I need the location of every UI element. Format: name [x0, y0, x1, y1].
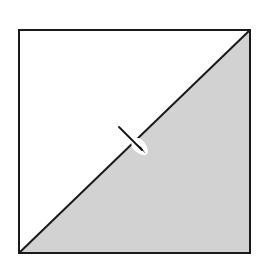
diagram-canvas: [0, 0, 270, 269]
